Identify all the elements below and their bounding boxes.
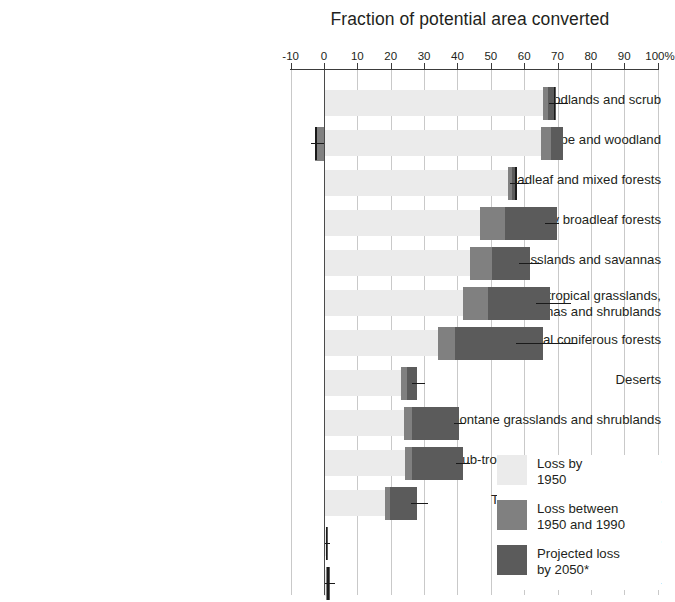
- error-bar: [516, 343, 577, 345]
- chart-row: Montane grasslands and shrublands: [0, 407, 661, 447]
- x-tick-label: 10: [351, 50, 364, 62]
- bar-segment-loss-by-1950: [324, 490, 385, 516]
- chart-row: Flooded grasslands and savannas: [0, 247, 661, 287]
- legend-swatch: [497, 500, 527, 530]
- bar-segment-loss-by-1950: [324, 90, 543, 116]
- error-bar: [510, 183, 527, 185]
- legend-label: Loss between 1950 and 1990: [537, 500, 625, 532]
- x-tick-mark: [424, 63, 425, 70]
- error-bar: [549, 103, 568, 105]
- bar-group: [0, 87, 661, 127]
- bar-group: [0, 167, 661, 207]
- bar-segment-loss-by-1950: [324, 410, 404, 436]
- chart-legend: Loss by 1950Loss between 1950 and 1990Pr…: [497, 455, 661, 590]
- error-bar: [456, 463, 470, 465]
- x-tick-label: 40: [451, 50, 464, 62]
- x-tick-label: 90: [618, 50, 631, 62]
- x-tick-label: 20: [384, 50, 397, 62]
- x-tick-mark: [624, 63, 625, 70]
- bar-segment-loss-by-1950: [324, 130, 541, 156]
- error-bar: [412, 383, 425, 385]
- x-tick-label: 60: [518, 50, 531, 62]
- error-bar: [311, 143, 324, 145]
- x-tick-mark: [524, 63, 525, 70]
- bar-segment-loss-by-1950: [324, 290, 463, 316]
- x-tick-label: 80: [584, 50, 597, 62]
- bar-segment-loss-by-1950: [324, 450, 405, 476]
- x-axis-tick-labels: -100102030405060708090100%: [0, 50, 661, 66]
- bar-segment-loss-by-1950: [324, 370, 401, 396]
- bar-group: [0, 287, 661, 327]
- error-bar-cap: [515, 167, 517, 200]
- x-tick-label: 0: [321, 50, 327, 62]
- bar-group: [0, 247, 661, 287]
- bar-group: [0, 407, 661, 447]
- x-tick-mark: [357, 63, 358, 70]
- legend-label: Projected loss by 2050*: [537, 545, 620, 577]
- legend-item: Loss between 1950 and 1990: [497, 500, 661, 532]
- chart-row: Deserts: [0, 367, 661, 407]
- x-tick-label: 100%: [645, 50, 674, 62]
- error-bar-cap: [315, 127, 317, 160]
- bar-segment-loss-1950-1990: [480, 207, 505, 240]
- legend-item: Projected loss by 2050*: [497, 545, 661, 577]
- error-bar: [454, 423, 465, 425]
- chart-title: Fraction of potential area converted: [275, 9, 665, 30]
- bar-group: [0, 207, 661, 247]
- error-bar: [519, 263, 540, 265]
- legend-item: Loss by 1950: [497, 455, 661, 487]
- x-tick-label: -10: [282, 50, 299, 62]
- bar-segment-loss-1950-1990: [470, 247, 492, 280]
- bar-segment-projected-2050: [412, 407, 459, 440]
- bar-segment-loss-1950-1990: [404, 407, 412, 440]
- x-tick-mark: [591, 63, 592, 70]
- error-bar-cap: [554, 87, 556, 120]
- legend-swatch: [497, 545, 527, 575]
- bar-segment-loss-by-1950: [324, 250, 470, 276]
- x-tick-label: 30: [418, 50, 431, 62]
- x-tick-mark: [491, 63, 492, 70]
- x-tick-mark: [324, 63, 325, 70]
- bar-segment-loss-1950-1990: [438, 327, 455, 360]
- bar-segment-projected-2050: [551, 127, 562, 160]
- chart-row: Mediterranean forests, woodlands and scr…: [0, 87, 661, 127]
- x-tick-mark: [391, 63, 392, 70]
- bar-group: [0, 127, 661, 167]
- x-tick-label: 70: [551, 50, 564, 62]
- bar-segment-loss-by-1950: [324, 170, 508, 196]
- bar-segment-loss-1950-1990: [463, 287, 488, 320]
- x-tick-mark: [658, 63, 659, 70]
- legend-swatch: [497, 455, 527, 485]
- error-bar: [536, 303, 571, 305]
- x-tick-mark: [457, 63, 458, 70]
- bar-segment-loss-by-1950: [324, 210, 480, 236]
- bar-segment-loss-1950-1990: [405, 447, 412, 480]
- zero-axis-line: [324, 70, 325, 595]
- chart-row: Tropical and sub-tropical grasslands, sa…: [0, 287, 661, 327]
- bar-segment-loss-by-1950: [324, 330, 438, 356]
- x-tick-mark: [291, 63, 292, 70]
- bar-segment-loss-1950-1990: [541, 127, 551, 160]
- chart-row: Temperate forest steppe and woodland: [0, 127, 661, 167]
- chart-row: Temperate broadleaf and mixed forests: [0, 167, 661, 207]
- chart-row: Tropical and sub-tropical coniferous for…: [0, 327, 661, 367]
- chart-row: Tropical and sub-tropical dry broadleaf …: [0, 207, 661, 247]
- x-tick-mark: [558, 63, 559, 70]
- error-bar: [545, 223, 559, 225]
- bar-group: [0, 327, 661, 367]
- legend-label: Loss by 1950: [537, 455, 582, 487]
- error-bar-cap: [327, 567, 329, 600]
- error-bar: [411, 503, 428, 505]
- x-tick-label: 50: [484, 50, 497, 62]
- error-bar-cap: [326, 527, 328, 560]
- bar-group: [0, 367, 661, 407]
